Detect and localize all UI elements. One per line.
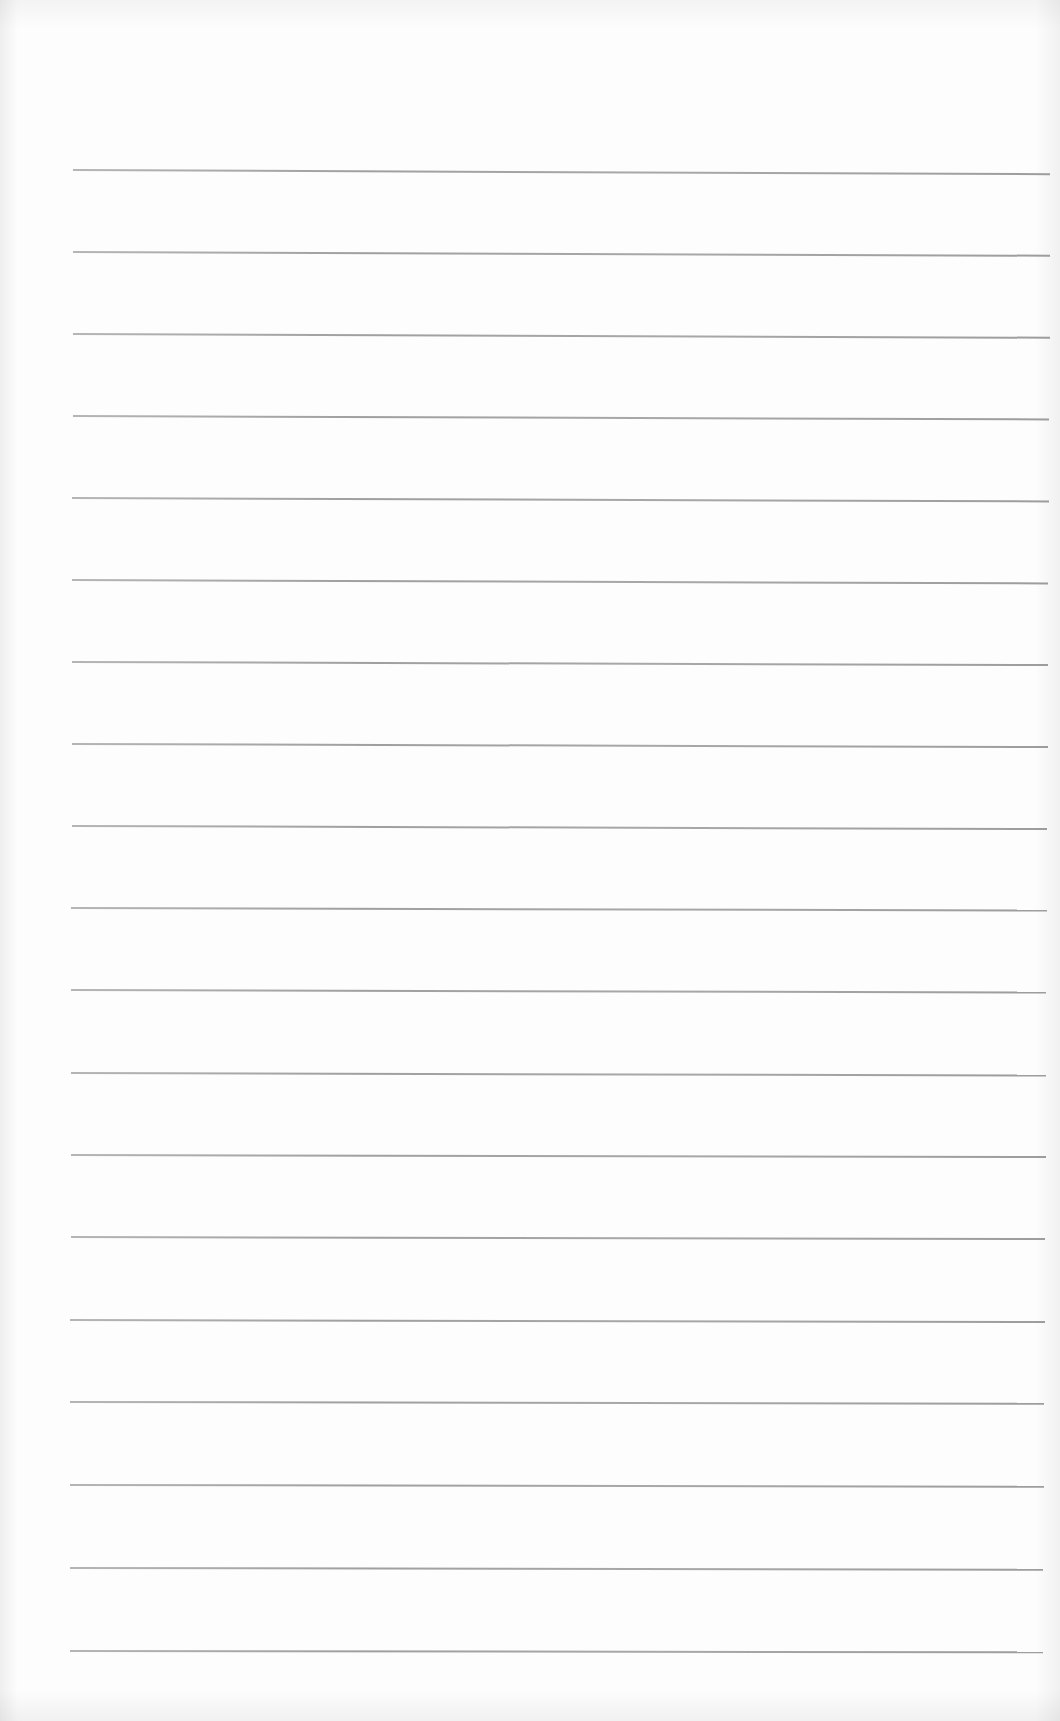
ruled-line: [70, 1319, 1045, 1323]
ruled-line: [72, 497, 1049, 502]
ruled-line: [73, 333, 1050, 339]
ruled-line: [71, 1236, 1045, 1240]
ruled-line: [70, 1401, 1044, 1405]
ruled-line: [73, 251, 1050, 257]
ruled-line: [71, 989, 1046, 994]
ruled-line: [73, 169, 1050, 175]
ruled-line: [72, 825, 1047, 830]
ruled-line: [72, 743, 1048, 748]
ruled-line: [70, 1567, 1043, 1571]
ruled-line: [71, 1072, 1046, 1077]
ruled-line: [70, 1484, 1044, 1488]
ruled-line: [70, 1650, 1043, 1653]
ruled-line: [72, 661, 1048, 666]
ruled-line: [72, 579, 1048, 584]
ruled-line: [71, 1154, 1046, 1158]
ruled-line: [71, 907, 1047, 912]
ruled-line: [73, 415, 1049, 420]
ruled-paper-page: [0, 0, 1060, 1721]
